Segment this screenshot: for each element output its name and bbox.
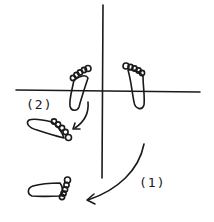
step-1-label: (1) — [139, 176, 165, 189]
horizontal-axis — [16, 90, 200, 92]
foot-rotated-2 — [27, 119, 71, 141]
arrow-2 — [73, 102, 88, 129]
right-foot-upright — [123, 63, 145, 109]
foot-rotated-1 — [28, 177, 70, 200]
arrow-1 — [87, 144, 144, 204]
step-2-label: (2) — [26, 98, 52, 111]
